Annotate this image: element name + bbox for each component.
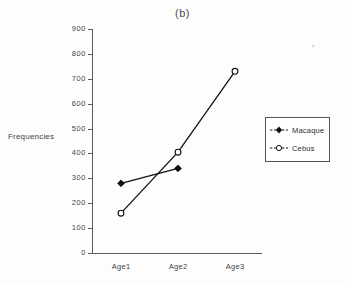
y-tick-label: 100 [72, 223, 86, 232]
y-axis-title: Frequencies [8, 132, 54, 141]
series-line-cebus [121, 71, 235, 213]
legend-label-cebus: Cebus [292, 144, 315, 153]
data-point-cebus [175, 149, 181, 155]
legend: Macaque Cebus [265, 117, 330, 162]
legend-label-macaque: Macaque [292, 126, 324, 135]
legend-entry-macaque: Macaque [270, 124, 324, 136]
scan-artifact-speck [311, 44, 315, 48]
x-tick-label: Age2 [169, 262, 188, 271]
y-tick-label: 200 [72, 198, 86, 207]
x-tick-label: Age1 [112, 262, 131, 271]
data-point-macaque [118, 180, 125, 187]
series-plot [92, 29, 262, 253]
filled-diamond-icon [270, 125, 288, 135]
open-circle-icon [270, 143, 288, 153]
y-tick-label: 900 [72, 24, 86, 33]
data-point-cebus [232, 68, 238, 74]
y-tick-label: 600 [72, 99, 86, 108]
data-point-macaque [175, 165, 182, 172]
chart-figure: (b) Frequencies 010020030040050060070080… [0, 0, 351, 284]
series-line-macaque [121, 168, 178, 183]
y-tick-label: 700 [72, 74, 86, 83]
y-tick-label: 500 [72, 124, 86, 133]
y-tick-label: 300 [72, 173, 86, 182]
x-tick-label: Age3 [226, 262, 245, 271]
plot-area: 0100200300400500600700800900 Age1Age2Age… [92, 29, 262, 253]
y-tick-mark [88, 253, 93, 254]
x-axis-line [92, 253, 262, 254]
legend-entry-cebus: Cebus [270, 142, 315, 154]
y-tick-label: 400 [72, 148, 86, 157]
y-tick-label: 800 [72, 49, 86, 58]
chart-title: (b) [0, 7, 351, 19]
y-tick-label: 0 [81, 248, 86, 257]
data-point-cebus [118, 210, 124, 216]
